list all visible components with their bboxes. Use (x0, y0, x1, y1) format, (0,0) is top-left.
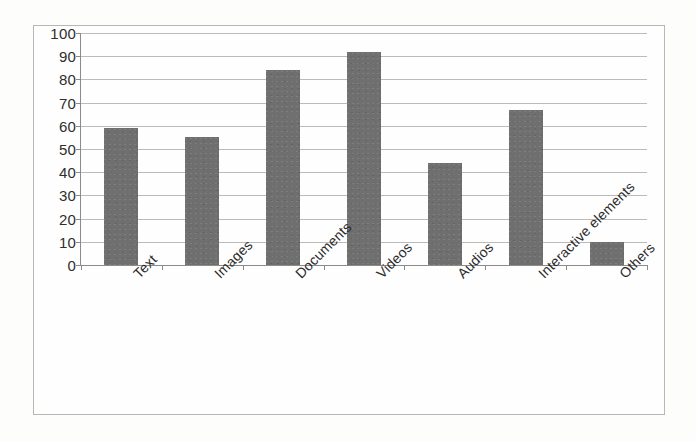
y-tick-label-90: 90 (34, 49, 76, 64)
y-tick-label-50: 50 (34, 142, 76, 157)
bar-images[interactable] (185, 137, 219, 265)
chart-figure-frame: 0102030405060708090100 TextImagesDocumen… (33, 25, 665, 415)
y-tick-mark-100 (76, 33, 81, 34)
bar-text[interactable] (104, 128, 138, 265)
y-tick-label-60: 60 (34, 118, 76, 133)
y-tick-mark-10 (76, 242, 81, 243)
y-tick-label-100: 100 (34, 26, 76, 41)
y-axis-tick-labels: 0102030405060708090100 (34, 33, 76, 265)
y-tick-mark-60 (76, 126, 81, 127)
y-tick-label-10: 10 (34, 234, 76, 249)
bar-documents[interactable] (266, 70, 300, 265)
bar-videos[interactable] (347, 52, 381, 265)
y-tick-label-30: 30 (34, 188, 76, 203)
y-tick-mark-20 (76, 219, 81, 220)
y-tick-label-40: 40 (34, 165, 76, 180)
chart-plot-wrapper: 0102030405060708090100 TextImagesDocumen… (34, 26, 666, 416)
page-background: 0102030405060708090100 TextImagesDocumen… (0, 0, 696, 441)
gridline-100 (81, 33, 647, 34)
bar-interactive-elements[interactable] (509, 110, 543, 265)
y-tick-label-20: 20 (34, 211, 76, 226)
bar-others[interactable] (590, 242, 624, 265)
x-tick-mark-7 (647, 265, 648, 270)
x-axis-category-labels: TextImagesDocumentsVideosAudiosInteracti… (80, 270, 646, 410)
y-tick-mark-70 (76, 103, 81, 104)
y-tick-mark-50 (76, 149, 81, 150)
y-tick-mark-40 (76, 172, 81, 173)
y-tick-label-0: 0 (34, 258, 76, 273)
y-tick-mark-90 (76, 56, 81, 57)
y-tick-mark-30 (76, 195, 81, 196)
y-tick-label-80: 80 (34, 72, 76, 87)
plot-area (80, 33, 647, 266)
bar-audios[interactable] (428, 163, 462, 265)
y-tick-label-70: 70 (34, 95, 76, 110)
y-tick-mark-80 (76, 79, 81, 80)
